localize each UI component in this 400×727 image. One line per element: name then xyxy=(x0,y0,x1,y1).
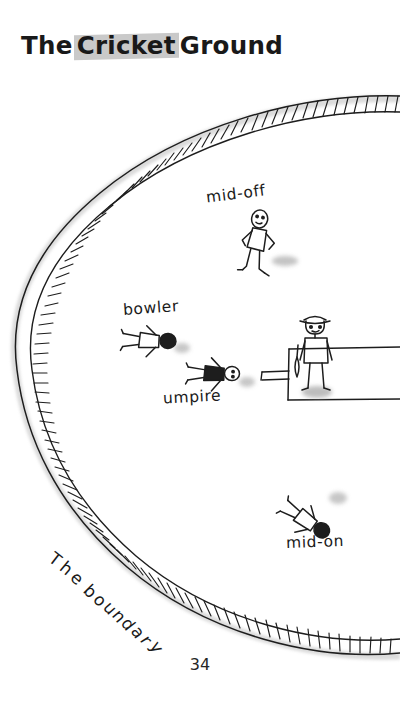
hat-brim xyxy=(300,321,330,324)
figure-batsman xyxy=(295,317,332,399)
figure-bowler xyxy=(120,325,190,359)
page-title: The Cricket Ground xyxy=(21,29,283,69)
label-umpire: umpire xyxy=(163,386,222,407)
title-word-ground: Ground xyxy=(180,29,283,63)
title-word-the: The xyxy=(21,29,73,63)
hat-crown xyxy=(304,317,326,321)
label-the-boundary: Theboundary xyxy=(50,543,210,653)
title-word-cricket: Cricket xyxy=(77,29,176,63)
cricket-bat xyxy=(295,357,299,377)
figure-mid-off xyxy=(237,208,298,276)
page-number: 34 xyxy=(0,655,400,674)
label-mid-on: mid-on xyxy=(286,532,345,552)
crease-lines xyxy=(261,371,289,380)
book-page: The Cricket Ground xyxy=(0,0,400,727)
title-highlight: Cricket xyxy=(74,29,179,63)
